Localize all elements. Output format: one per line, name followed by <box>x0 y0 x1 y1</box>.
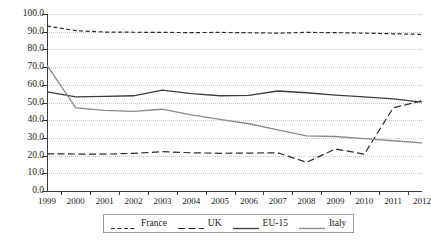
x-axis-tick-mark <box>321 191 322 195</box>
legend-label: EU-15 <box>263 219 288 229</box>
x-axis-tick-label: 2001 <box>96 197 114 206</box>
y-axis-tick-label: 20.0 <box>0 151 44 161</box>
x-axis-tick-label: 2005 <box>211 197 229 206</box>
y-axis-tick-label: 0.0 <box>0 186 44 196</box>
legend-swatch-icon <box>178 219 204 228</box>
series-line-france <box>47 26 422 34</box>
x-axis-tick-mark <box>379 191 380 195</box>
y-axis-tick-label: 60.0 <box>0 80 44 90</box>
x-axis-tick-label: 2006 <box>240 197 258 206</box>
x-axis-tick-mark <box>90 191 91 195</box>
x-axis-tick-label: 1999 <box>38 197 56 206</box>
y-axis-tick-label: 30.0 <box>0 133 44 143</box>
y-axis-tick-label: 10.0 <box>0 168 44 178</box>
x-axis-tick-label: 2000 <box>67 197 85 206</box>
y-axis-tick-label: 70.0 <box>0 62 44 72</box>
y-axis-tick-mark <box>42 191 47 192</box>
y-axis-tick-label: 90.0 <box>0 27 44 37</box>
x-axis-tick-mark <box>263 191 264 195</box>
legend-item-eu-15[interactable]: EU-15 <box>233 219 288 229</box>
legend-label: Italy <box>329 219 346 229</box>
legend-label: France <box>141 219 167 229</box>
x-axis-tick-mark <box>408 191 409 195</box>
y-axis-tick-label: 80.0 <box>0 44 44 54</box>
series-lines <box>47 14 422 191</box>
legend-item-france[interactable]: France <box>111 219 167 229</box>
x-axis-tick-label: 2004 <box>182 197 200 206</box>
x-axis-tick-label: 2003 <box>153 197 171 206</box>
y-axis-tick-label: 40.0 <box>0 115 44 125</box>
legend-swatch-icon <box>233 219 259 228</box>
y-axis-tick-label: 100.0 <box>0 9 44 19</box>
legend-label: UK <box>208 219 222 229</box>
legend-swatch-icon <box>299 219 325 228</box>
series-line-eu-15 <box>47 90 422 102</box>
x-axis-tick-label: 2009 <box>326 197 344 206</box>
x-axis-tick-mark <box>206 191 207 195</box>
legend-item-uk[interactable]: UK <box>178 219 222 229</box>
x-axis-tick-label: 2008 <box>298 197 316 206</box>
series-line-italy <box>47 65 422 143</box>
x-axis-tick-label: 2010 <box>355 197 373 206</box>
chart-legend: FranceUKEU-15Italy <box>103 214 354 233</box>
x-axis-tick-label: 2002 <box>125 197 143 206</box>
x-axis-tick-label: 2011 <box>384 197 402 206</box>
legend-swatch-icon <box>111 219 137 228</box>
legend-item-italy[interactable]: Italy <box>299 219 346 229</box>
y-axis-tick-label: 50.0 <box>0 98 44 108</box>
x-axis-tick-mark <box>119 191 120 195</box>
x-axis-tick-mark <box>235 191 236 195</box>
x-axis-tick-mark <box>148 191 149 195</box>
x-axis-tick-mark <box>61 191 62 195</box>
x-axis-tick-mark <box>350 191 351 195</box>
x-axis-tick-label: 2012 <box>413 197 431 206</box>
x-axis-tick-label: 2007 <box>269 197 287 206</box>
x-axis-tick-mark <box>177 191 178 195</box>
x-axis-tick-mark <box>292 191 293 195</box>
